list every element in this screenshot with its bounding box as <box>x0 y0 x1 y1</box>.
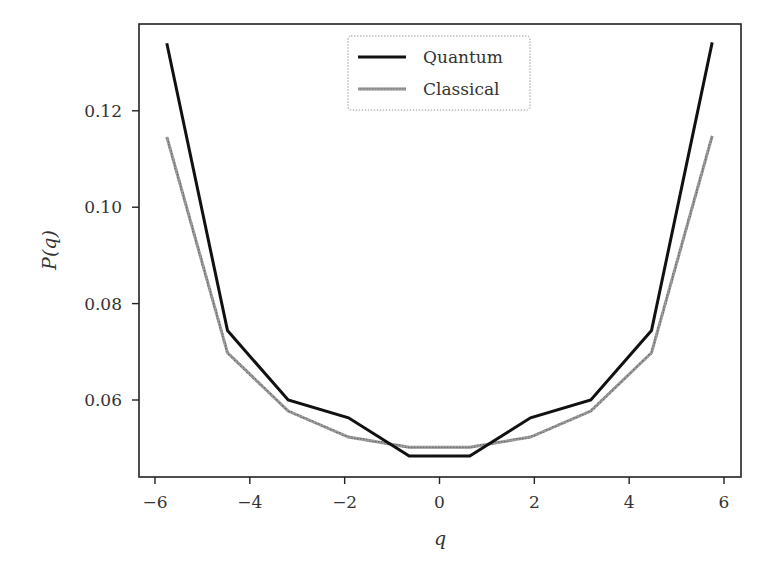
y-axis-ticks: 0.060.080.100.12 <box>84 101 139 410</box>
y-tick-label: 0.12 <box>84 101 122 121</box>
x-tick-label: −4 <box>237 492 262 512</box>
legend-label-quantum: Quantum <box>423 47 503 67</box>
x-tick-label: −2 <box>332 492 357 512</box>
x-tick-label: 0 <box>434 492 445 512</box>
x-tick-label: 6 <box>719 492 730 512</box>
y-axis-label: P(q) <box>38 230 60 271</box>
x-axis-ticks: −6−4−20246 <box>142 477 729 512</box>
x-tick-label: 4 <box>624 492 635 512</box>
x-tick-label: 2 <box>529 492 540 512</box>
x-axis-label: q <box>434 527 446 549</box>
y-tick-label: 0.06 <box>84 390 122 410</box>
line-chart: −6−4−20246 0.060.080.100.12 q P(q) Quant… <box>0 0 778 586</box>
series-line-classical <box>167 136 712 447</box>
x-tick-label: −6 <box>142 492 167 512</box>
legend: Quantum Classical <box>348 36 530 110</box>
legend-label-classical: Classical <box>423 79 500 99</box>
y-tick-label: 0.10 <box>84 197 122 217</box>
y-tick-label: 0.08 <box>84 294 122 314</box>
